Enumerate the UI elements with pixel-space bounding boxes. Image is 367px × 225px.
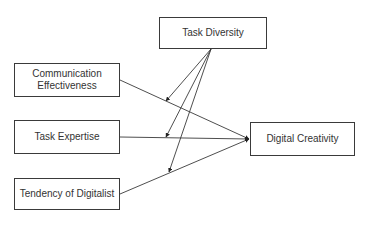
node-communication-label-line2: Effectiveness bbox=[37, 80, 96, 92]
node-digital-creativity-label: Digital Creativity bbox=[266, 133, 338, 145]
node-task-diversity: Task Diversity bbox=[159, 17, 267, 49]
research-model-diagram: Task Diversity Communication Effectivene… bbox=[0, 0, 367, 225]
edge-tendency-to-creativity bbox=[120, 139, 249, 194]
edge-diversity-moderates-tendency bbox=[169, 49, 211, 172]
node-communication-label-line1: Communication bbox=[32, 68, 101, 80]
node-task-expertise-label: Task Expertise bbox=[34, 131, 99, 143]
edge-diversity-moderates-communication bbox=[166, 49, 211, 101]
edge-expertise-to-creativity bbox=[120, 137, 249, 139]
edge-communication-to-creativity bbox=[120, 80, 249, 139]
node-tendency-of-digitalist: Tendency of Digitalist bbox=[14, 178, 120, 210]
node-digital-creativity: Digital Creativity bbox=[250, 122, 355, 156]
node-tendency-label: Tendency of Digitalist bbox=[20, 188, 115, 200]
node-communication-effectiveness: Communication Effectiveness bbox=[14, 63, 120, 97]
edge-diversity-moderates-expertise bbox=[166, 49, 211, 137]
node-task-diversity-label: Task Diversity bbox=[182, 27, 244, 39]
node-task-expertise: Task Expertise bbox=[14, 120, 120, 154]
